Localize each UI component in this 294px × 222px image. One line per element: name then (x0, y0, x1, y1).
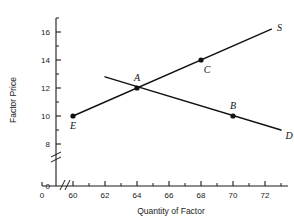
y-tick-label-8: 8 (46, 140, 51, 149)
x-axis-title: Quantity of Factor (137, 206, 205, 216)
data-point-A[interactable] (134, 85, 139, 90)
x-tick-label-68: 68 (197, 191, 206, 200)
x-origin-label: 0 (40, 191, 45, 200)
curve-label-S: S (277, 22, 282, 33)
x-tick-label-60: 60 (69, 191, 78, 200)
x-axis-break-icon (60, 180, 70, 190)
factor-market-chart: 0060626466687072810121416SDEACBQuantity … (0, 0, 294, 222)
y-origin-label: 0 (46, 182, 51, 191)
x-tick-label-62: 62 (101, 191, 110, 200)
x-tick-label-64: 64 (133, 191, 142, 200)
series-line-S (73, 29, 271, 116)
point-label-B: B (230, 100, 236, 111)
y-tick-label-12: 12 (41, 84, 50, 93)
curve-label-D: D (284, 130, 293, 141)
y-tick-label-10: 10 (41, 112, 50, 121)
series-line-D (105, 77, 281, 130)
point-label-A: A (133, 72, 141, 83)
chart-canvas: 0060626466687072810121416SDEACBQuantity … (0, 0, 294, 222)
data-point-B[interactable] (230, 113, 235, 118)
y-tick-label-16: 16 (41, 28, 50, 37)
point-label-E: E (69, 120, 76, 131)
data-point-C[interactable] (198, 57, 203, 62)
x-tick-label-72: 72 (261, 191, 270, 200)
x-tick-label-66: 66 (165, 191, 174, 200)
point-label-C: C (204, 64, 211, 75)
data-point-E[interactable] (70, 113, 75, 118)
y-tick-label-14: 14 (41, 56, 50, 65)
y-axis-title: Factor Price (8, 77, 18, 123)
x-tick-label-70: 70 (229, 191, 238, 200)
